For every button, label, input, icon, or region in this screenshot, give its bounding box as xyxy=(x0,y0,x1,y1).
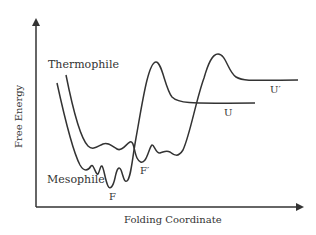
f-state-label: F xyxy=(109,191,116,202)
energy-landscape-diagram: Thermophile Mesophile F F′ U U′ Folding … xyxy=(0,0,316,235)
mesophile-label: Mesophile xyxy=(47,173,105,186)
x-axis-label: Folding Coordinate xyxy=(124,214,222,225)
u-prime-state-label: U′ xyxy=(270,84,281,95)
thermophile-label: Thermophile xyxy=(48,58,119,71)
u-state-label: U xyxy=(224,107,232,118)
mesophile-curve xyxy=(57,62,255,188)
f-prime-state-label: F′ xyxy=(140,165,150,176)
y-axis-label: Free Energy xyxy=(13,84,24,148)
